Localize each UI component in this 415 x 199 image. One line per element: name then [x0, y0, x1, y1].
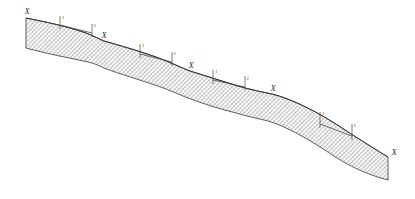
station-marker-4: X [269, 83, 276, 93]
bracket-3-label-right: 2 [247, 76, 250, 81]
bracket-1-label-left: 1 [62, 15, 65, 20]
bracket-4-label-right: 2 [354, 123, 357, 128]
station-marker-5: X [390, 147, 397, 157]
terrain-body [26, 18, 388, 180]
bracket-2-label-right: 2 [174, 51, 177, 56]
bracket-2-label-left: 1 [142, 43, 145, 48]
station-marker-1: X [23, 6, 30, 16]
figure-root: 1 2 1 2 1 2 1 2 X X X [0, 0, 415, 199]
bracket-1-label-right: 2 [94, 23, 97, 28]
station-marker-3: X [187, 60, 194, 70]
bracket-4-label-left: 1 [322, 111, 325, 116]
bracket-3-label-left: 1 [215, 69, 218, 74]
hillslope-cross-section-svg: 1 2 1 2 1 2 1 2 X X X [0, 0, 415, 199]
station-marker-2: X [100, 30, 107, 40]
